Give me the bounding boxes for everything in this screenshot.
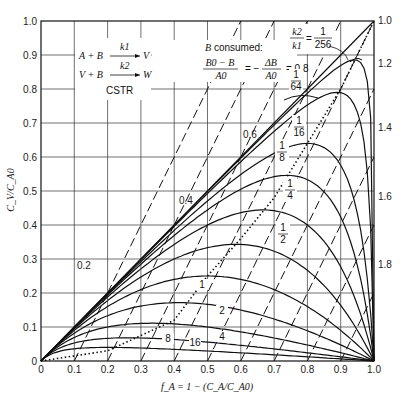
curve-label-num: 1 (287, 178, 293, 189)
curve-label-num: 1 (296, 115, 302, 126)
curve-label-den: 16 (293, 127, 305, 138)
ratio-num: k2 (292, 26, 301, 37)
ratio-first-num: 1 (320, 26, 326, 37)
x-tick-label: 0.6 (234, 364, 248, 375)
ratio-first-den: 256 (315, 39, 332, 50)
right-b-label: 1.2 (378, 58, 392, 69)
x-tick-label: 0.8 (300, 364, 314, 375)
y-tick-label: 0.7 (23, 118, 37, 129)
x-tick-label: 0.2 (101, 364, 115, 375)
b-consumed-title: B consumed: (205, 42, 263, 53)
y-tick-label: 0.3 (23, 254, 37, 265)
y-tick-label: 0.5 (23, 186, 37, 197)
b-label: 0.2 (77, 260, 91, 271)
x-tick-label: 0.5 (201, 364, 215, 375)
x-axis-title: f_A = 1 − (C_A/C_A0) (161, 381, 254, 393)
right-b-label: 1.0 (378, 15, 392, 26)
rxn1-left: A + B (78, 50, 103, 61)
b-eq-den2: A0 (264, 70, 276, 81)
y-tick-label: 0 (31, 356, 37, 367)
curve-label-num: 1 (279, 140, 285, 151)
x-tick-label: 0.9 (334, 364, 348, 375)
y-tick-label: 0.8 (23, 84, 37, 95)
rxn2-rate: k2 (120, 60, 129, 71)
reactor-label: CSTR (106, 85, 133, 96)
x-tick-label: 0.1 (67, 364, 81, 375)
curve-label: 4 (219, 331, 225, 342)
curve-label: 1 (199, 279, 205, 290)
b-eq-num: B0 − B (206, 57, 235, 68)
curve-labels: 1641161814121248160.20.40.6 (77, 58, 362, 348)
right-b-label: 1.6 (378, 191, 392, 202)
y-tick-label: 0.2 (23, 288, 37, 299)
b-eq-den: A0 (214, 70, 226, 81)
ratio-den: k1 (292, 40, 301, 51)
b-label: 0.4 (179, 195, 193, 206)
curve-label-den: 2 (280, 234, 286, 245)
x-tick-label: 0.4 (167, 364, 181, 375)
x-tick-label: 0.7 (267, 364, 281, 375)
b-eq-num2: ΔB (264, 57, 277, 68)
curve-label-num: 1 (293, 69, 299, 80)
x-tick-label: 1.0 (367, 364, 381, 375)
curve-label-num: 1 (280, 222, 286, 233)
x-tick-label: 0 (38, 364, 44, 375)
y-tick-label: 0.1 (23, 322, 37, 333)
y-tick-label: 0.9 (23, 50, 37, 61)
curve-label: 16 (189, 337, 201, 348)
b-eq-mid: = − (245, 63, 260, 74)
y-tick-label: 0.6 (23, 152, 37, 163)
y-tick-label: 1.0 (23, 16, 37, 27)
b-label: 0.6 (243, 129, 257, 140)
curve-label: 8 (165, 333, 171, 344)
rxn1-rate: k1 (120, 41, 129, 52)
ratio-eq: = (306, 33, 312, 44)
curve-label-den: 4 (287, 190, 293, 201)
curve-label: 2 (219, 305, 225, 316)
y-tick-label: 0.4 (23, 220, 37, 231)
rxn2-left: V + B (79, 69, 103, 80)
chart: 00.10.20.30.40.50.60.70.80.91.000.10.20.… (0, 0, 407, 397)
rxn2-right: W (143, 69, 153, 80)
curve-label-den: 8 (279, 152, 285, 163)
y-axis-title: C_V/C_A0 (5, 168, 16, 211)
right-b-label: 1.8 (378, 259, 392, 270)
x-tick-label: 0.3 (134, 364, 148, 375)
right-b-label: 1.4 (378, 122, 392, 133)
curve-label-den: 64 (290, 81, 302, 92)
